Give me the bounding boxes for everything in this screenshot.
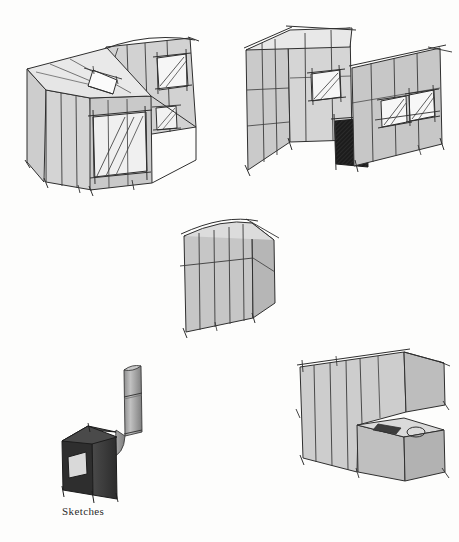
counter-unit xyxy=(356,418,449,481)
upper-cabinet xyxy=(404,352,450,412)
sketch-sheet: Sketches xyxy=(0,0,459,542)
figure-caption: Sketches xyxy=(62,505,104,517)
stove-door-window xyxy=(68,452,87,478)
sketch-3-slab-volume xyxy=(180,219,279,338)
flue-vertical xyxy=(124,366,142,436)
sketch-1-axonometric-house-roof-deck xyxy=(25,37,199,196)
sketch-5-wood-stove-with-flue xyxy=(62,366,142,504)
sketch-4-kitchen-wall-elevation xyxy=(296,349,450,481)
volume-joint xyxy=(152,160,196,183)
sketches-drawing-canvas xyxy=(0,0,459,542)
sketch-2-axonometric-tower-and-wing xyxy=(244,26,452,176)
